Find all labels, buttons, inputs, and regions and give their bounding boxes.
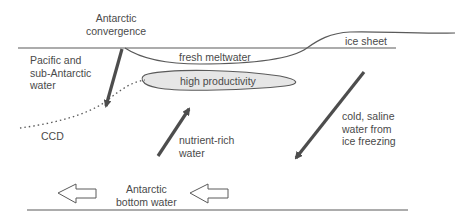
- antarctic-ocean-diagram: Antarctic convergence Pacific and sub-An…: [0, 0, 468, 222]
- label-high-productivity: high productivity: [180, 75, 256, 88]
- label-fresh-meltwater: fresh meltwater: [179, 51, 251, 64]
- diagram-canvas: [0, 0, 468, 222]
- bottom-water-arrow-right: [190, 184, 228, 203]
- bottom-water-arrow-left: [58, 184, 96, 203]
- convergence-sinking-arrow: [106, 49, 122, 106]
- label-nutrient-rich-water: nutrient-rich water: [179, 134, 234, 159]
- label-pacific-water: Pacific and sub-Antarctic water: [30, 54, 91, 92]
- label-antarctic-convergence: Antarctic convergence: [86, 12, 146, 37]
- label-ice-sheet: ice sheet: [345, 35, 387, 48]
- label-cold-saline-water: cold, saline water from ice freezing: [342, 110, 396, 148]
- label-antarctic-bottom-water: Antarctic bottom water: [116, 183, 177, 208]
- label-ccd: CCD: [41, 130, 64, 143]
